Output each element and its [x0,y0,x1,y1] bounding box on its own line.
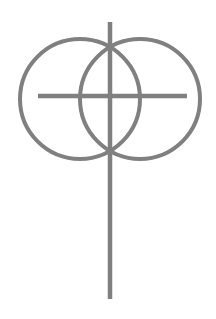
figure-canvas [0,0,216,319]
venn-cross-diagram [0,0,216,319]
